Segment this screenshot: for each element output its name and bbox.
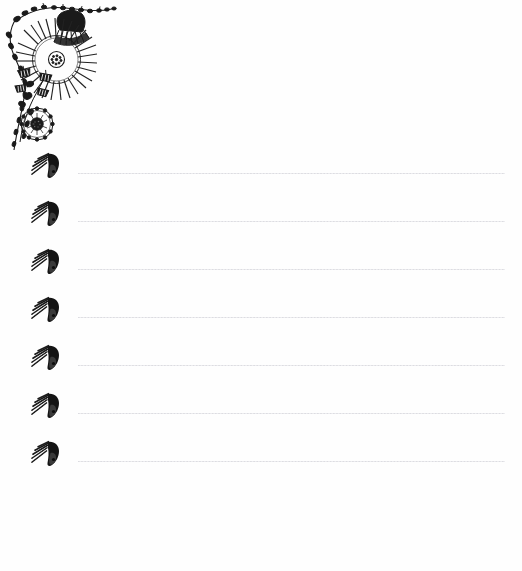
bird-head-ornament bbox=[29, 440, 65, 468]
line-row[interactable] bbox=[0, 440, 522, 484]
writing-rule[interactable] bbox=[78, 317, 505, 318]
dark-fan-flower bbox=[54, 10, 89, 45]
leafy-vine-horizontal bbox=[13, 3, 116, 23]
stationery-page bbox=[0, 0, 522, 571]
floral-corner-ornament bbox=[0, 0, 130, 152]
line-row[interactable] bbox=[0, 200, 522, 244]
writing-rule[interactable] bbox=[78, 413, 505, 414]
round-pom-flower bbox=[20, 107, 54, 141]
ruled-lines-area bbox=[0, 152, 522, 492]
bird-head-ornament bbox=[29, 392, 65, 420]
small-bell-flowers bbox=[15, 65, 53, 108]
writing-rule[interactable] bbox=[78, 269, 505, 270]
bird-head-ornament bbox=[29, 200, 65, 228]
line-row[interactable] bbox=[0, 392, 522, 436]
bird-head-ornament bbox=[29, 296, 65, 324]
line-row[interactable] bbox=[0, 152, 522, 196]
bird-head-ornament bbox=[29, 248, 65, 276]
line-row[interactable] bbox=[0, 248, 522, 292]
bird-head-ornament bbox=[29, 152, 65, 180]
writing-rule[interactable] bbox=[78, 173, 505, 174]
line-row[interactable] bbox=[0, 296, 522, 340]
large-radiating-daisy bbox=[16, 18, 97, 100]
bird-head-ornament bbox=[29, 344, 65, 372]
leafy-vine-vertical bbox=[5, 22, 44, 150]
page-bottom-margin bbox=[0, 492, 522, 571]
line-row[interactable] bbox=[0, 344, 522, 388]
writing-rule[interactable] bbox=[78, 461, 505, 462]
writing-rule[interactable] bbox=[78, 365, 505, 366]
writing-rule[interactable] bbox=[78, 221, 505, 222]
